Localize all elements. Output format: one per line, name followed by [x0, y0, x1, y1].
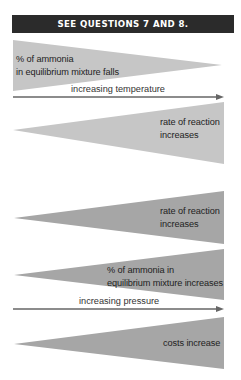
label-line: equilibrium mixture increases — [107, 277, 223, 290]
label-line: % of ammonia in — [107, 264, 223, 277]
temperature-rate-label: rate of reaction increases — [160, 116, 220, 141]
label-line: rate of reaction — [160, 116, 220, 129]
label-line: rate of reaction — [160, 205, 220, 218]
pressure-axis-label: increasing pressure — [79, 296, 159, 307]
label-line: increases — [160, 218, 220, 231]
pressure-rate-label: rate of reaction increases — [160, 205, 220, 230]
ammonia-increases-label: % of ammonia in equilibrium mixture incr… — [107, 264, 223, 289]
costs-label: costs increase — [163, 337, 220, 350]
temperature-axis-label: increasing temperature — [71, 84, 165, 95]
label-line: % of ammonia — [16, 53, 119, 66]
label-line: costs increase — [163, 337, 220, 350]
label-line: increases — [160, 129, 220, 142]
ammonia-falls-label: % of ammonia in equilibrium mixture fall… — [16, 53, 119, 78]
label-line: in equilibrium mixture falls — [16, 66, 119, 79]
